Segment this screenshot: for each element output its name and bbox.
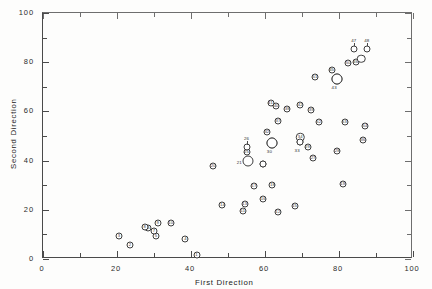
data-point-18	[269, 182, 276, 189]
data-point-27	[310, 155, 317, 162]
data-point-3	[115, 232, 122, 239]
x-axis-title: First Direction	[195, 278, 254, 287]
x-tick-10	[80, 253, 81, 257]
data-point-31	[267, 138, 278, 149]
y-right-tick-50	[407, 136, 411, 137]
data-point-4	[182, 236, 189, 243]
y-axis-title: Second Direction	[9, 98, 18, 169]
y-tick-label-0: 0	[8, 254, 34, 263]
y-tick-100	[43, 13, 49, 14]
x-top-tick-100	[413, 13, 414, 19]
data-point-2	[126, 242, 133, 249]
x-top-tick-80	[339, 13, 340, 19]
data-point-48	[363, 45, 370, 52]
data-point-16	[260, 195, 267, 202]
x-tick-40	[191, 251, 192, 257]
data-point-1	[193, 252, 200, 259]
data-point-8	[141, 224, 148, 231]
data-point-45	[328, 66, 335, 73]
x-top-tick-10	[80, 13, 81, 17]
data-point-35	[297, 139, 304, 146]
data-point-leader-47	[354, 43, 355, 47]
y-right-tick-30	[407, 185, 411, 186]
data-point-label-33: 33	[295, 149, 300, 153]
data-point-7	[151, 227, 158, 234]
x-tick-label-0: 0	[39, 264, 44, 273]
x-top-tick-40	[191, 13, 192, 19]
y-right-tick-0	[405, 259, 411, 260]
data-point-12	[274, 209, 281, 216]
x-tick-label-20: 20	[111, 264, 121, 273]
data-point-54	[361, 123, 368, 130]
data-point-leader-26	[247, 141, 248, 145]
y-tick-80	[43, 62, 49, 63]
x-tick-50	[228, 253, 229, 257]
data-point-53	[341, 119, 348, 126]
x-top-tick-20	[117, 13, 118, 19]
y-tick-60	[43, 111, 49, 112]
x-tick-label-80: 80	[333, 264, 343, 273]
data-point-50	[345, 60, 352, 67]
x-tick-70	[302, 253, 303, 257]
y-tick-label-80: 80	[8, 57, 34, 66]
y-tick-90	[43, 38, 47, 39]
data-point-37	[274, 118, 281, 125]
data-point-38	[284, 105, 291, 112]
data-point-label-30: 30	[267, 150, 272, 154]
data-point-17	[250, 183, 257, 190]
data-point-leader-48	[367, 43, 368, 47]
y-right-tick-90	[407, 38, 411, 39]
x-tick-label-60: 60	[259, 264, 269, 273]
data-point-41	[267, 99, 274, 106]
y-tick-30	[43, 185, 47, 186]
data-point-24	[260, 161, 267, 168]
data-point-label-21: 21	[237, 160, 242, 164]
data-point-22	[243, 155, 254, 166]
y-tick-40	[43, 161, 49, 162]
y-right-tick-20	[405, 210, 411, 211]
data-point-52	[315, 119, 322, 126]
y-right-tick-80	[405, 62, 411, 63]
x-tick-label-100: 100	[404, 264, 419, 273]
data-point-19	[339, 180, 346, 187]
data-point-26	[243, 144, 250, 151]
x-tick-20	[117, 251, 118, 257]
y-tick-70	[43, 87, 47, 88]
y-tick-0	[43, 259, 49, 260]
x-top-tick-30	[154, 13, 155, 17]
data-point-47	[350, 45, 357, 52]
x-tick-90	[376, 253, 377, 257]
y-right-tick-40	[405, 161, 411, 162]
y-right-tick-70	[407, 87, 411, 88]
scatter-plot-figure: 1234567891011121314151617181920212325262…	[0, 0, 432, 289]
y-tick-10	[43, 234, 47, 235]
data-point-44	[332, 74, 343, 85]
y-right-tick-10	[407, 234, 411, 235]
data-point-29	[304, 144, 311, 151]
data-point-36	[360, 136, 367, 143]
data-point-9	[154, 220, 161, 227]
x-top-tick-90	[376, 13, 377, 17]
y-right-tick-100	[405, 13, 411, 14]
x-top-tick-50	[228, 13, 229, 17]
x-tick-label-40: 40	[185, 264, 195, 273]
data-point-51	[311, 73, 318, 80]
data-point-11	[239, 208, 246, 215]
data-point-39	[308, 107, 315, 114]
data-point-20	[210, 162, 217, 169]
x-tick-60	[265, 251, 266, 257]
data-point-49	[357, 54, 366, 63]
y-right-tick-60	[405, 111, 411, 112]
data-point-42	[297, 102, 304, 109]
y-tick-50	[43, 136, 47, 137]
x-tick-0	[43, 251, 44, 257]
data-point-10	[167, 220, 174, 227]
data-point-label-43: 43	[332, 86, 337, 90]
plot-frame: 1234567891011121314151617181920212325262…	[42, 12, 412, 258]
y-tick-20	[43, 210, 49, 211]
y-tick-label-20: 20	[8, 204, 34, 213]
x-top-tick-70	[302, 13, 303, 17]
y-tick-label-100: 100	[8, 8, 34, 17]
x-top-tick-60	[265, 13, 266, 19]
x-tick-30	[154, 253, 155, 257]
